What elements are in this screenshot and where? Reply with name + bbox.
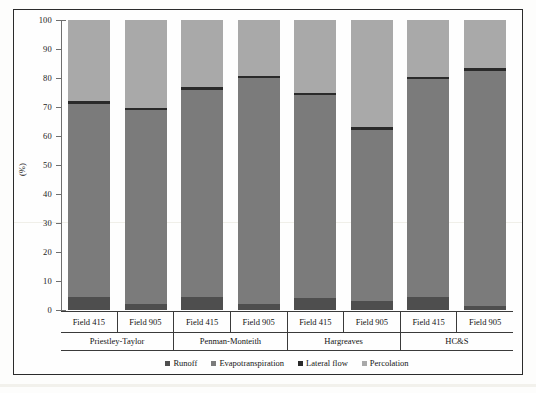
y-axis-label: (%): [17, 163, 27, 176]
y-axis-tick-label: 10: [12, 276, 52, 286]
y-axis-ticks: 0102030405060708090100: [0, 0, 52, 393]
y-axis-tick-label: 20: [12, 247, 52, 257]
legend-swatch-icon: [211, 361, 216, 366]
y-axis-tick-label: 0: [12, 305, 52, 315]
legend-label: Lateral flow: [306, 358, 348, 368]
y-axis-tick-label: 40: [12, 189, 52, 199]
y-axis-tick-label: 70: [12, 102, 52, 112]
bar-segment-runoff: [68, 297, 110, 310]
field-label-2: Field 415: [174, 312, 231, 332]
stacked-bar[interactable]: [464, 20, 506, 310]
bar-segment-runoff: [464, 306, 506, 310]
bar-segment-percolation: [125, 20, 167, 108]
bar-segment-evapotranspiration: [238, 78, 280, 304]
field-label-6: Field 415: [401, 312, 458, 332]
stacked-bar[interactable]: [125, 20, 167, 310]
bar-segment-percolation: [351, 20, 393, 127]
bar-segment-percolation: [294, 20, 336, 93]
stacked-bar[interactable]: [68, 20, 110, 310]
bar-segment-evapotranspiration: [125, 110, 167, 304]
stacked-bar[interactable]: [407, 20, 449, 310]
bar-segment-percolation: [464, 20, 506, 68]
bar-segment-percolation: [407, 20, 449, 77]
bar-segment-runoff: [351, 301, 393, 310]
legend-item-percolation[interactable]: Percolation: [362, 358, 409, 368]
bar-segment-runoff: [238, 304, 280, 310]
field-label-4: Field 415: [288, 312, 345, 332]
field-label-3: Field 905: [231, 312, 288, 332]
field-label-1: Field 905: [118, 312, 175, 332]
bar-segment-evapotranspiration: [68, 104, 110, 297]
bar-segment-evapotranspiration: [181, 90, 223, 297]
field-label-row: Field 415Field 905Field 415Field 905Fiel…: [61, 311, 513, 333]
bar-segment-runoff: [125, 304, 167, 310]
figure-container: 0102030405060708090100 (%) Field 415Fiel…: [0, 0, 536, 393]
bar-segment-evapotranspiration: [351, 130, 393, 301]
scan-edge: [0, 384, 536, 387]
chart-legend: RunoffEvapotranspirationLateral flowPerc…: [61, 356, 513, 370]
bar-segment-percolation: [181, 20, 223, 87]
legend-item-evapotranspiration[interactable]: Evapotranspiration: [211, 358, 284, 368]
bar-segment-runoff: [407, 297, 449, 310]
y-axis-tick-label: 100: [12, 15, 52, 25]
legend-swatch-icon: [298, 361, 303, 366]
bar-segment-runoff: [181, 297, 223, 310]
stacked-bar[interactable]: [181, 20, 223, 310]
field-label-0: Field 415: [61, 312, 118, 332]
method-label-row: Priestley-TaylorPenman-MonteithHargreave…: [61, 331, 513, 351]
legend-swatch-icon: [362, 361, 367, 366]
field-label-7: Field 905: [457, 312, 513, 332]
stacked-bar[interactable]: [238, 20, 280, 310]
bar-segment-percolation: [68, 20, 110, 101]
legend-label: Percolation: [370, 358, 409, 368]
y-axis-tick-label: 80: [12, 73, 52, 83]
legend-label: Evapotranspiration: [219, 358, 284, 368]
method-label-2: Hargreaves: [288, 331, 401, 350]
stacked-bar[interactable]: [351, 20, 393, 310]
field-label-5: Field 905: [344, 312, 401, 332]
method-label-1: Penman-Monteith: [174, 331, 287, 350]
legend-swatch-icon: [165, 361, 170, 366]
y-axis-tick-label: 30: [12, 218, 52, 228]
method-label-0: Priestley-Taylor: [61, 331, 174, 350]
bar-segment-evapotranspiration: [407, 79, 449, 297]
stacked-bar[interactable]: [294, 20, 336, 310]
legend-item-lateral-flow[interactable]: Lateral flow: [298, 358, 348, 368]
bar-segment-evapotranspiration: [464, 71, 506, 306]
y-axis-tick-label: 60: [12, 131, 52, 141]
legend-item-runoff[interactable]: Runoff: [165, 358, 197, 368]
y-axis-tick-label: 90: [12, 44, 52, 54]
bar-segment-percolation: [238, 20, 280, 76]
method-label-3: HC&S: [401, 331, 513, 350]
bar-segment-evapotranspiration: [294, 95, 336, 298]
plot-area: [61, 20, 513, 310]
bar-segment-runoff: [294, 298, 336, 310]
legend-label: Runoff: [173, 358, 197, 368]
